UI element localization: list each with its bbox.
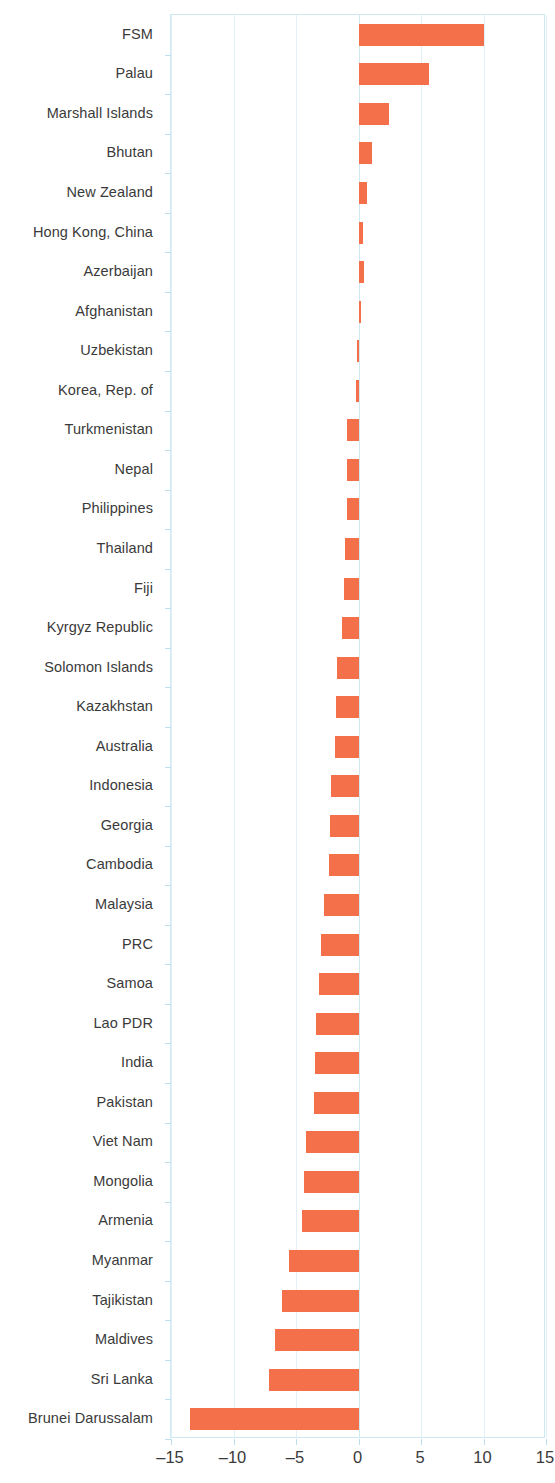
bar <box>336 696 359 718</box>
bar <box>335 736 359 758</box>
category-label: New Zealand <box>66 185 153 200</box>
category-tick-mark <box>165 411 171 412</box>
category-label: Tajikistan <box>92 1292 153 1307</box>
bar <box>356 380 359 402</box>
bar <box>359 142 373 164</box>
category-label: Maldives <box>95 1332 153 1347</box>
category-label: Pakistan <box>97 1095 153 1110</box>
x-tick-mark <box>234 1439 235 1445</box>
category-label: Fiji <box>134 580 153 595</box>
category-label: Georgia <box>101 818 153 833</box>
gridline-x <box>171 15 172 1437</box>
category-tick-mark <box>165 885 171 886</box>
category-label: Australia <box>96 739 153 754</box>
category-tick-mark <box>165 1083 171 1084</box>
bar <box>316 1013 359 1035</box>
bar <box>359 24 484 46</box>
x-tick-mark <box>171 1439 172 1445</box>
bar <box>319 973 359 995</box>
category-tick-mark <box>165 173 171 174</box>
category-tick-mark <box>165 846 171 847</box>
x-tick-mark <box>484 1439 485 1445</box>
category-tick-mark <box>165 1360 171 1361</box>
category-tick-mark <box>165 806 171 807</box>
category-tick-mark <box>165 292 171 293</box>
x-tick-mark <box>359 1439 360 1445</box>
bar <box>337 657 358 679</box>
category-tick-mark <box>165 213 171 214</box>
category-label: Kyrgyz Republic <box>47 620 153 635</box>
category-label: Turkmenistan <box>65 422 154 437</box>
category-label: Thailand <box>97 541 153 556</box>
bar <box>359 301 362 323</box>
category-tick-mark <box>165 55 171 56</box>
category-label: Kazakhstan <box>76 699 153 714</box>
category-label: Hong Kong, China <box>33 224 153 239</box>
category-label: Philippines <box>82 501 153 516</box>
category-tick-mark <box>165 1162 171 1163</box>
category-tick-mark <box>165 529 171 530</box>
gridline-x <box>546 15 547 1437</box>
bar <box>330 815 359 837</box>
x-axis: –15–10–5051015 <box>0 1449 555 1483</box>
x-tick-mark <box>546 1439 547 1445</box>
category-tick-mark <box>165 569 171 570</box>
bar <box>342 617 358 639</box>
bar <box>345 538 359 560</box>
category-label: Azerbaijan <box>83 264 153 279</box>
x-tick-label: 0 <box>353 1449 362 1466</box>
category-tick-mark <box>165 371 171 372</box>
bar <box>269 1369 359 1391</box>
category-label: Myanmar <box>92 1253 153 1268</box>
category-tick-mark <box>165 1320 171 1321</box>
gridline-x <box>484 15 485 1437</box>
category-label: PRC <box>122 936 153 951</box>
category-tick-mark <box>165 94 171 95</box>
bar <box>314 1092 359 1114</box>
bar <box>359 63 429 85</box>
category-tick-mark <box>165 331 171 332</box>
category-tick-mark <box>165 727 171 728</box>
category-tick-mark <box>165 1123 171 1124</box>
gridline-x <box>421 15 422 1437</box>
bar <box>359 103 389 125</box>
category-label: Marshall Islands <box>47 106 153 121</box>
category-label: Palau <box>115 66 153 81</box>
category-tick-mark <box>165 134 171 135</box>
category-tick-mark <box>165 925 171 926</box>
bar-chart: FSMPalauMarshall IslandsBhutanNew Zealan… <box>0 0 555 1483</box>
category-label: Indonesia <box>89 778 153 793</box>
bar <box>315 1052 359 1074</box>
category-tick-mark <box>165 1399 171 1400</box>
category-label: Mongolia <box>93 1174 153 1189</box>
category-axis: FSMPalauMarshall IslandsBhutanNew Zealan… <box>0 0 162 1483</box>
bar <box>289 1250 359 1272</box>
bar <box>344 578 359 600</box>
category-tick-mark <box>165 964 171 965</box>
category-tick-mark <box>165 1439 171 1440</box>
bar <box>347 419 358 441</box>
category-label: Viet Nam <box>93 1134 153 1149</box>
x-tick-label: –15 <box>156 1449 184 1466</box>
x-tick-label: –5 <box>286 1449 304 1466</box>
x-tick-label: 10 <box>473 1449 491 1466</box>
bar <box>359 222 363 244</box>
category-tick-mark <box>165 687 171 688</box>
bar <box>359 182 368 204</box>
category-label: Armenia <box>98 1213 153 1228</box>
category-label: India <box>121 1055 153 1070</box>
category-label: Malaysia <box>95 897 153 912</box>
category-label: FSM <box>122 27 153 42</box>
category-label: Lao PDR <box>93 1015 153 1030</box>
bar <box>275 1329 359 1351</box>
bar <box>347 498 358 520</box>
bar <box>304 1171 359 1193</box>
category-label: Bhutan <box>106 145 153 160</box>
category-tick-mark <box>165 450 171 451</box>
bar <box>302 1210 358 1232</box>
bar <box>306 1131 359 1153</box>
bar <box>357 340 359 362</box>
category-tick-mark <box>165 1202 171 1203</box>
category-tick-mark <box>165 608 171 609</box>
category-label: Solomon Islands <box>44 659 153 674</box>
